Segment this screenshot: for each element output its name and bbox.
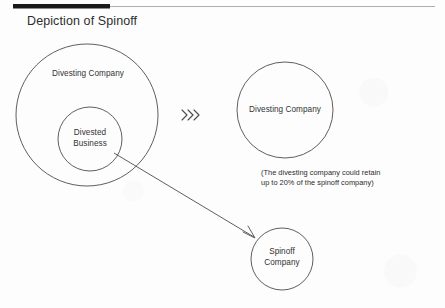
label-spinoff-company: Spinoff Company	[251, 247, 313, 268]
spinoff-diagram-page: Depiction of Spinoff Divesting Company D…	[0, 0, 445, 308]
arrow-divested-to-spinoff	[114, 153, 255, 238]
label-divesting-company-after: Divesting Company	[233, 105, 337, 116]
circle-divesting-company-before	[16, 44, 158, 186]
label-divested-business: Divested Business	[58, 128, 122, 149]
spinoff-diagram-canvas	[0, 0, 445, 308]
triple-chevron-right-icon	[182, 110, 199, 120]
label-divesting-company-before: Divesting Company	[28, 69, 148, 80]
annotation-retained-stake: (The divesting company could retain up t…	[261, 168, 431, 187]
